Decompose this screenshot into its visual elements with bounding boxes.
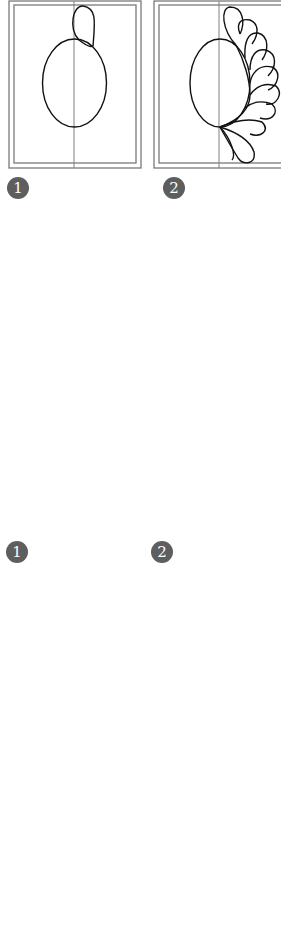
step-badge-1: 1 — [6, 541, 28, 563]
step-badge-2: 2 — [151, 541, 173, 563]
step-badge-1: 1 — [7, 177, 29, 199]
oval-step-1-panel — [9, 1, 141, 168]
quilting-diagram — [0, 0, 281, 946]
step-badge-2: 2 — [163, 177, 185, 199]
oval-step-2-panel — [154, 1, 281, 168]
